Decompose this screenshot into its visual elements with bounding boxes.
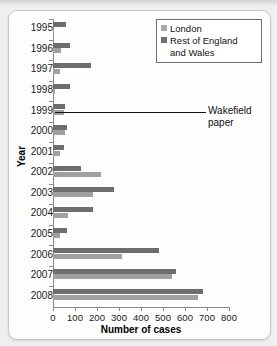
y-axis-tick — [49, 163, 53, 164]
bar-2003-london — [53, 192, 93, 197]
y-tick-text: 2007 — [13, 270, 53, 280]
bar-1996-london — [53, 48, 61, 53]
y-axis-tick-label: 2001 — [9, 147, 53, 167]
bar-1995-london — [53, 28, 54, 33]
y-axis-tick-label: 1996 — [9, 44, 53, 64]
y-axis-tick-label: 2004 — [9, 208, 53, 228]
y-tick-text: 2001 — [13, 147, 53, 157]
bar-2008-london — [53, 295, 198, 300]
legend-item-rest-of-england-and-wales: Rest of England — [161, 35, 257, 46]
bar-2004-london — [53, 213, 68, 218]
annotation-line-1: Wakefield — [208, 105, 252, 116]
y-tick-text: 2004 — [13, 208, 53, 218]
legend-label-london: London — [170, 23, 202, 34]
bar-1999-rest-of-england-and-wales — [53, 104, 65, 109]
y-tick-text: 1999 — [13, 106, 53, 116]
light-gray-swatch-icon — [161, 25, 167, 31]
bar-2006-rest-of-england-and-wales — [53, 248, 159, 253]
screenshot-background: Year Number of cases 1995199619971998199… — [0, 0, 277, 346]
legend-item-london: London — [161, 23, 257, 34]
y-tick-text: 2003 — [13, 188, 53, 198]
x-axis-tick — [163, 307, 164, 311]
y-tick-text: 2008 — [13, 291, 53, 301]
x-axis-tick — [141, 307, 142, 311]
bar-2001-rest-of-england-and-wales — [53, 145, 64, 150]
y-axis-tick — [49, 245, 53, 246]
bar-1997-london — [53, 69, 60, 74]
bar-1998-london — [53, 89, 55, 94]
y-tick-text: 2002 — [13, 167, 53, 177]
y-axis-tick-label: 2003 — [9, 188, 53, 208]
bar-2008-rest-of-england-and-wales — [53, 289, 203, 294]
x-axis-title: Number of cases — [53, 324, 229, 335]
bar-2003-rest-of-england-and-wales — [53, 187, 114, 192]
chart-panel: Year Number of cases 1995199619971998199… — [8, 10, 271, 340]
wakefield-annotation-leader-line — [55, 112, 206, 113]
y-tick-text: 1998 — [13, 85, 53, 95]
bar-2007-rest-of-england-and-wales — [53, 269, 176, 274]
bar-2000-london — [53, 130, 65, 135]
bar-1996-rest-of-england-and-wales — [53, 43, 70, 48]
bar-2005-rest-of-england-and-wales — [53, 228, 67, 233]
legend-label-rest-of-england: Rest of England — [170, 35, 238, 46]
chart-plot-area: Year Number of cases 1995199619971998199… — [9, 11, 270, 339]
y-axis-tick — [49, 19, 53, 20]
x-axis-tick — [185, 307, 186, 311]
bar-2002-rest-of-england-and-wales — [53, 166, 81, 171]
y-tick-text: 2005 — [13, 229, 53, 239]
y-axis-tick — [49, 204, 53, 205]
legend-label-and-wales: and Wales — [170, 47, 257, 58]
page-top-edge-artifact — [0, 0, 277, 5]
x-axis-tick — [229, 307, 230, 311]
dark-gray-swatch-icon — [161, 37, 167, 43]
y-tick-text: 1997 — [13, 64, 53, 74]
x-axis-tick — [75, 307, 76, 311]
y-axis-tick — [49, 286, 53, 287]
bar-2006-london — [53, 254, 122, 259]
y-axis-tick-label: 1998 — [9, 85, 53, 105]
x-axis-tick-label: 800 — [214, 312, 244, 323]
y-axis-tick — [49, 60, 53, 61]
y-tick-text: 1996 — [13, 44, 53, 54]
y-tick-text: 2006 — [13, 250, 53, 260]
annotation-line-2: paper — [208, 117, 234, 128]
y-axis-tick-label: 1995 — [9, 23, 53, 43]
y-axis-tick — [49, 101, 53, 102]
x-axis-tick — [97, 307, 98, 311]
x-axis-tick — [119, 307, 120, 311]
y-axis-tick-label: 2002 — [9, 167, 53, 187]
y-axis-tick-label: 1997 — [9, 64, 53, 84]
x-axis-tick — [207, 307, 208, 311]
y-axis-tick — [49, 184, 53, 185]
y-axis-tick — [49, 40, 53, 41]
y-axis-tick — [49, 81, 53, 82]
bar-1995-rest-of-england-and-wales — [53, 22, 66, 27]
y-axis-tick-label: 2006 — [9, 250, 53, 270]
bar-2002-london — [53, 172, 101, 177]
y-tick-text: 1995 — [13, 23, 53, 33]
bar-2004-rest-of-england-and-wales — [53, 207, 93, 212]
y-axis-tick-label: 2005 — [9, 229, 53, 249]
bar-2000-rest-of-england-and-wales — [53, 125, 67, 130]
x-axis-tick — [53, 307, 54, 311]
y-axis-tick-label: 2008 — [9, 291, 53, 311]
bar-1998-rest-of-england-and-wales — [53, 84, 70, 89]
y-axis-tick — [49, 266, 53, 267]
wakefield-annotation-label: Wakefield paper — [208, 105, 270, 129]
y-tick-text: 2000 — [13, 126, 53, 136]
chart-legend: London Rest of England and Wales — [156, 19, 262, 63]
y-axis-tick — [49, 122, 53, 123]
y-axis-tick — [49, 142, 53, 143]
y-axis-tick — [49, 225, 53, 226]
y-axis-tick-label: 2000 — [9, 126, 53, 146]
y-axis-tick-label: 1999 — [9, 106, 53, 126]
bar-2005-london — [53, 233, 60, 238]
bar-1997-rest-of-england-and-wales — [53, 63, 91, 68]
bar-2001-london — [53, 151, 60, 156]
bar-2007-london — [53, 274, 172, 279]
y-axis-tick-label: 2007 — [9, 270, 53, 290]
